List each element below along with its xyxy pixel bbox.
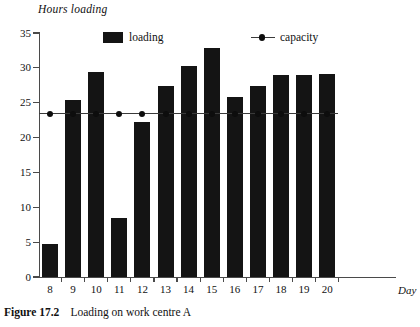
- capacity-marker-icon: [209, 111, 215, 117]
- x-axis-tick-label: 10: [84, 284, 108, 295]
- x-axis-tick-label: 12: [130, 284, 154, 295]
- bar: [296, 75, 312, 277]
- figure-caption: Figure 17.2Loading on work centre A: [4, 306, 191, 318]
- bar: [273, 75, 289, 277]
- capacity-marker-icon: [278, 111, 284, 117]
- x-axis-tick-label: 18: [269, 284, 293, 295]
- capacity-marker-icon: [186, 111, 192, 117]
- y-axis-tick-label: 30: [5, 62, 31, 73]
- y-axis-tick-label: 10: [5, 202, 31, 213]
- y-axis-tick-label: 20: [5, 132, 31, 143]
- y-axis-tick: [33, 137, 40, 138]
- x-axis-tick: [61, 277, 62, 282]
- x-axis-tick: [269, 277, 270, 282]
- x-axis-tick: [315, 277, 316, 282]
- bar: [42, 244, 58, 277]
- x-axis-title: Day: [398, 284, 416, 296]
- x-axis-tick-label: 8: [38, 284, 62, 295]
- y-axis-tick-label: 25: [5, 97, 31, 108]
- y-axis-tick: [33, 67, 40, 68]
- x-axis-tick: [292, 277, 293, 282]
- x-axis-tick: [176, 277, 177, 282]
- bar: [181, 66, 197, 277]
- legend-label-loading: loading: [129, 31, 164, 43]
- capacity-marker-icon: [139, 111, 145, 117]
- x-axis-tick: [130, 277, 131, 282]
- x-axis-tick-label: 17: [246, 284, 270, 295]
- x-axis-tick-label: 19: [292, 284, 316, 295]
- x-axis-tick: [200, 277, 201, 282]
- x-axis-tick: [84, 277, 85, 282]
- x-axis-tick-label: 11: [107, 284, 131, 295]
- y-axis-tick-label: 15: [5, 167, 31, 178]
- bar: [111, 218, 127, 277]
- bar: [65, 100, 81, 277]
- capacity-marker-icon: [255, 111, 261, 117]
- y-axis-tick: [33, 102, 40, 103]
- capacity-marker-icon: [163, 111, 169, 117]
- x-axis-tick: [223, 277, 224, 282]
- y-axis-tick: [33, 172, 40, 173]
- y-axis-tick-label: 0: [5, 272, 31, 283]
- bar: [319, 74, 335, 277]
- capacity-marker-icon: [47, 111, 53, 117]
- x-axis-tick-label: 16: [223, 284, 247, 295]
- y-axis-tick: [33, 32, 40, 33]
- y-axis-tick-label: 35: [5, 28, 31, 39]
- x-axis-tick-label: 15: [200, 284, 224, 295]
- x-axis-tick-label: 13: [154, 284, 178, 295]
- bar: [134, 122, 150, 277]
- y-axis-tick: [33, 207, 40, 208]
- x-axis-tick-label: 9: [61, 284, 85, 295]
- x-axis-tick-label: 20: [315, 284, 339, 295]
- x-axis-tick: [153, 277, 154, 282]
- capacity-marker-icon: [70, 111, 76, 117]
- bar: [88, 72, 104, 277]
- x-axis-tick: [107, 277, 108, 282]
- capacity-marker-icon: [116, 111, 122, 117]
- figure-container: Hours loading 05101520253035 89101112131…: [0, 0, 420, 327]
- legend-marker-capacity-icon: [259, 34, 265, 40]
- y-axis-tick: [33, 276, 40, 277]
- figure-caption-text: Loading on work centre A: [70, 306, 191, 318]
- bar: [227, 97, 243, 277]
- capacity-marker-icon: [301, 111, 307, 117]
- capacity-marker-icon: [232, 111, 238, 117]
- y-axis-title: Hours loading: [38, 3, 107, 15]
- legend-swatch-loading: [103, 32, 123, 43]
- x-axis-tick: [338, 277, 339, 282]
- legend-label-capacity: capacity: [280, 31, 318, 43]
- figure-caption-label: Figure 17.2: [4, 306, 59, 318]
- x-axis-tick: [246, 277, 247, 282]
- x-axis-tick-label: 14: [177, 284, 201, 295]
- bar: [204, 48, 220, 277]
- y-axis-tick: [33, 242, 40, 243]
- y-axis-tick-label: 5: [5, 237, 31, 248]
